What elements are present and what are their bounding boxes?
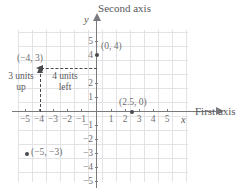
y-tick-mark bbox=[95, 167, 98, 168]
y-tick-mark bbox=[95, 41, 98, 42]
y-tick-label: 1 bbox=[79, 92, 93, 102]
coordinate-plane-figure: Second axis First axis y x −5 −4 −3 −2 −… bbox=[0, 0, 249, 193]
horizontal-move-annotation: 4 units left bbox=[45, 71, 85, 93]
y-tick-label: −4 bbox=[79, 162, 93, 172]
vertical-move-line1: 3 units bbox=[2, 71, 40, 82]
y-tick-label: −5 bbox=[79, 176, 93, 186]
y-tick-mark bbox=[95, 125, 98, 126]
x-tick-mark bbox=[153, 109, 154, 112]
y-tick-label: −1 bbox=[79, 120, 93, 130]
horizontal-move-line1: 4 units bbox=[45, 71, 85, 82]
y-tick-label: −2 bbox=[79, 134, 93, 144]
y-tick-mark bbox=[95, 139, 98, 140]
x-tick-mark bbox=[167, 109, 168, 112]
x-tick-mark bbox=[25, 109, 26, 112]
vertical-move-annotation: 3 units up bbox=[2, 71, 40, 93]
y-tick-mark bbox=[95, 153, 98, 154]
y-axis-letter: y bbox=[84, 14, 89, 25]
y-tick-mark bbox=[95, 83, 98, 84]
horizontal-axis-title: First axis bbox=[195, 105, 236, 117]
plotted-point bbox=[95, 53, 99, 57]
y-tick-mark bbox=[95, 97, 98, 98]
horizontal-move-line2: left bbox=[45, 82, 85, 93]
x-axis-letter: x bbox=[181, 114, 186, 125]
horizontal-translation-dashed-line bbox=[41, 68, 97, 69]
x-tick-mark bbox=[81, 109, 82, 112]
x-axis-line bbox=[12, 111, 218, 112]
plotted-point bbox=[25, 152, 29, 156]
x-tick-label: 5 bbox=[159, 114, 175, 124]
y-axis-arrow-icon bbox=[93, 13, 101, 21]
plotted-point bbox=[130, 110, 134, 114]
vertical-axis-title: Second axis bbox=[0, 2, 249, 14]
x-tick-mark bbox=[53, 109, 54, 112]
y-tick-label: 5 bbox=[79, 36, 93, 46]
y-tick-label: −3 bbox=[79, 148, 93, 158]
point-label: (2.5, 0) bbox=[119, 97, 147, 107]
x-tick-mark bbox=[125, 109, 126, 112]
y-tick-mark bbox=[95, 181, 98, 182]
x-tick-mark bbox=[67, 109, 68, 112]
y-tick-label: 4 bbox=[79, 50, 93, 60]
vertical-move-line2: up bbox=[2, 82, 40, 93]
x-tick-mark bbox=[111, 109, 112, 112]
vertical-translation-dashed-line bbox=[40, 69, 41, 112]
point-label: (0, 4) bbox=[101, 41, 122, 51]
point-label: (−5, −3) bbox=[31, 147, 62, 157]
y-axis-line bbox=[96, 20, 97, 188]
x-tick-mark bbox=[139, 109, 140, 112]
point-label: (−4, 3) bbox=[17, 53, 43, 63]
plotted-point bbox=[39, 67, 43, 71]
grid-background bbox=[18, 30, 188, 182]
